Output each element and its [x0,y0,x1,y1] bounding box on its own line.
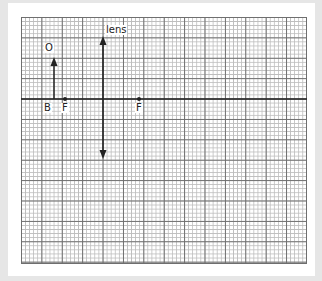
lens-label: lens [105,25,127,35]
lens-icon [100,36,107,159]
focal-right-label: F [135,103,143,113]
object-arrow-icon [51,57,58,99]
focal-point-left [63,97,67,101]
focal-left-label: F [61,103,69,113]
focal-point-right [137,97,141,101]
object-base-label: B [43,103,52,113]
object-label: O [44,43,54,53]
